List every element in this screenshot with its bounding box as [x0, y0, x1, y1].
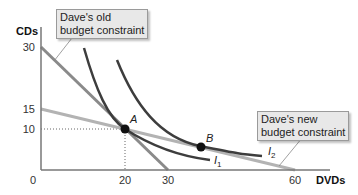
old-callout-line2: budget constraint [60, 24, 144, 37]
point-a-label: A [129, 113, 137, 125]
y-tick-30: 30 [23, 41, 35, 53]
new-budget-callout: Dave's new budget constraint [257, 111, 349, 141]
x-axis-title: DVDs [316, 174, 345, 186]
new-callout-leader [279, 138, 302, 166]
chart-canvas: A B I1 I2 30 15 10 0 20 30 60 CDs DVDs [0, 0, 358, 195]
y-axis-title: CDs [16, 25, 38, 37]
point-b-label: B [206, 132, 213, 144]
point-a [121, 125, 130, 134]
x-tick-30: 30 [162, 174, 174, 186]
y-tick-10: 10 [23, 123, 35, 135]
point-b [197, 143, 206, 152]
new-callout-line1: Dave's new [261, 113, 345, 126]
old-budget-line [41, 47, 168, 170]
y-tick-15: 15 [23, 103, 35, 115]
x-tick-60: 60 [289, 174, 301, 186]
old-budget-callout: Dave's old budget constraint [56, 9, 148, 39]
old-callout-line1: Dave's old [60, 11, 144, 24]
i2-label: I2 [268, 145, 276, 160]
old-callout-leader [54, 38, 72, 61]
new-callout-line2: budget constraint [261, 126, 345, 139]
i1-label: I1 [214, 154, 222, 169]
x-tick-20: 20 [119, 174, 131, 186]
i2-label-sub: 2 [271, 151, 276, 160]
origin-label: 0 [30, 174, 36, 186]
i1-label-sub: 1 [217, 160, 222, 169]
